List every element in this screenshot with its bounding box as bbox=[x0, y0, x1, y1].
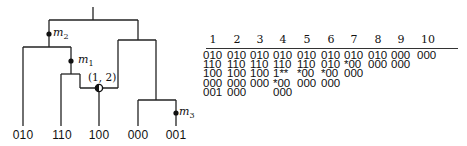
table-column-10: 000 bbox=[417, 51, 441, 60]
mutation-label-m2: m2 bbox=[53, 26, 69, 41]
column-header: 5 bbox=[304, 33, 311, 46]
leaf-label: 010 bbox=[13, 128, 34, 142]
table-column-7: 010 *00 000 bbox=[344, 51, 368, 79]
table-cell: 001 bbox=[203, 88, 227, 97]
mutation-dot-m1 bbox=[68, 58, 73, 63]
table-column-6: 010 010 *00 000 bbox=[321, 51, 345, 88]
table-column-4: 010 110 1** *00 000 bbox=[273, 51, 297, 97]
sequence-table: 1 2 3 4 5 6 7 8 9 10 010 110 100 000 001… bbox=[206, 33, 460, 47]
mutation-label-m3: m3 bbox=[179, 105, 195, 120]
mutation-label-m1: m1 bbox=[78, 53, 94, 68]
mutation-dot-m3 bbox=[173, 110, 178, 115]
table-cell: 000 bbox=[227, 88, 251, 97]
table-cell: 000 bbox=[368, 60, 392, 69]
leaf-label: 001 bbox=[166, 128, 187, 142]
column-header: 9 bbox=[398, 33, 405, 46]
table-cell: 000 bbox=[321, 79, 345, 88]
leaf-label: 110 bbox=[52, 128, 72, 142]
leaf-label: 100 bbox=[89, 128, 110, 142]
ancestral-recombination-graph bbox=[0, 0, 200, 128]
table-cell: 000 bbox=[417, 51, 441, 60]
table-header: 1 2 3 4 5 6 7 8 9 10 bbox=[206, 33, 460, 47]
table-cell: 000 bbox=[250, 79, 274, 88]
column-header: 3 bbox=[257, 33, 264, 46]
table-column-1: 010 110 100 000 001 bbox=[203, 51, 227, 97]
column-header: 6 bbox=[328, 33, 335, 46]
column-header: 4 bbox=[280, 33, 287, 46]
leaf-label: 000 bbox=[128, 128, 149, 142]
column-header: 10 bbox=[421, 33, 435, 46]
table-cell: 000 bbox=[391, 60, 415, 69]
column-header: 2 bbox=[234, 33, 241, 46]
recombination-label: (1, 2) bbox=[88, 71, 116, 83]
table-cell: 000 bbox=[297, 79, 321, 88]
table-column-3: 010 110 100 000 bbox=[250, 51, 274, 88]
table-column-8: 010 000 bbox=[368, 51, 392, 69]
table-column-2: 010 110 100 000 000 bbox=[227, 51, 251, 97]
mutation-dot-m2 bbox=[46, 31, 51, 36]
recombination-node-icon bbox=[95, 84, 102, 91]
column-header: 7 bbox=[351, 33, 358, 46]
table-column-5: 010 110 *00 000 bbox=[297, 51, 321, 88]
table-cell: 000 bbox=[344, 69, 368, 78]
table-cell: 000 bbox=[273, 88, 297, 97]
table-column-9: 000 000 bbox=[391, 51, 415, 69]
column-header: 1 bbox=[210, 33, 217, 46]
column-header: 8 bbox=[375, 33, 382, 46]
